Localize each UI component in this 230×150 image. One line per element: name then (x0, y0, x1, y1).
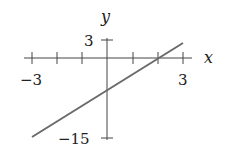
y-tick-label-top: 3 (84, 32, 94, 50)
y-tick-label-bottom: −15 (58, 130, 90, 148)
x-axis-label: x (204, 48, 213, 67)
y-axis-label: y (100, 7, 111, 26)
chart: y x −3 3 3 −15 (0, 0, 230, 150)
x-tick-label-max: 3 (178, 71, 188, 89)
x-tick-label-min: −3 (20, 71, 42, 89)
